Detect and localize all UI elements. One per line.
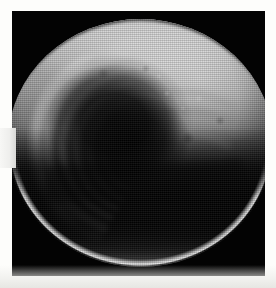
page-canvas: Grayscale telescopic image of a planetar… — [0, 0, 276, 288]
planetary-disk — [12, 19, 265, 267]
left-limb-bleed — [0, 128, 16, 168]
image-plate — [12, 11, 265, 276]
top-limb-rim — [12, 19, 265, 267]
